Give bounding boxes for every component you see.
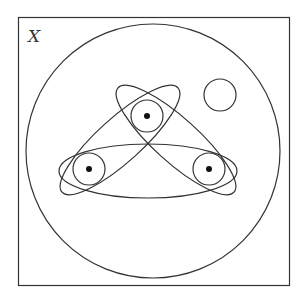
- outer-circle: [26, 24, 280, 278]
- universe-label: X: [26, 26, 41, 46]
- set-diagram: X: [0, 0, 306, 300]
- universe-frame: [19, 18, 290, 286]
- empty-circle: [204, 79, 236, 111]
- ellipse-top-right-diag: [103, 71, 248, 208]
- point-dot-top: [144, 113, 150, 119]
- ellipse-top-left-diag: [47, 71, 192, 208]
- point-dot-left: [86, 166, 92, 172]
- ellipse-group: [47, 71, 248, 208]
- point-dot-right: [206, 166, 212, 172]
